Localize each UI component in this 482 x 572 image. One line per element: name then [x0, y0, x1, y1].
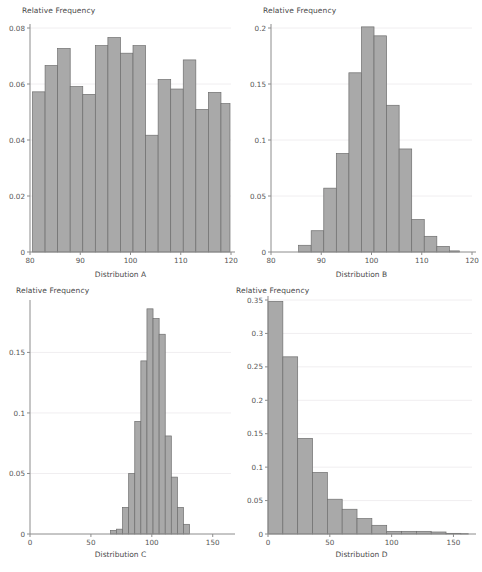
x-tick-label: 100 — [365, 256, 379, 265]
y-tick-label: 0.1 — [255, 136, 266, 145]
histogram-bar — [147, 309, 153, 534]
histogram-bar — [208, 92, 221, 252]
y-tick-label: 0 — [20, 530, 25, 539]
x-tick-label: 110 — [415, 256, 429, 265]
histogram-bar — [372, 525, 387, 534]
histogram-bar — [146, 135, 159, 252]
histogram-bar — [324, 188, 337, 252]
panel-a-xlabel: Distribution A — [0, 270, 241, 279]
histogram-bar — [357, 519, 372, 534]
histogram-bar — [177, 507, 183, 534]
y-tick-label: 0.04 — [9, 136, 25, 145]
histogram-bar — [412, 220, 425, 252]
histogram-bar — [283, 357, 298, 534]
x-tick-label: 150 — [447, 538, 461, 547]
x-tick-label: 150 — [206, 538, 220, 547]
histogram-bar — [387, 105, 400, 252]
histogram-bar — [313, 472, 328, 534]
histogram-bar — [299, 245, 312, 252]
histogram-bar — [123, 507, 129, 534]
histogram-bar — [298, 438, 313, 534]
y-tick-label: 0.2 — [255, 24, 266, 33]
histogram-bar — [129, 473, 135, 534]
x-tick-label: 50 — [86, 538, 96, 547]
histogram-bar — [349, 73, 362, 252]
histogram-bar — [183, 524, 189, 534]
y-tick-label: 0.05 — [250, 192, 266, 201]
histogram-bar — [116, 529, 122, 534]
histogram-bar — [171, 89, 184, 252]
x-tick-label: 110 — [174, 256, 188, 265]
histogram-bar — [120, 53, 133, 252]
panel-distribution-b: Relative Frequency 00.050.10.150.2809010… — [241, 0, 482, 286]
histogram-bar — [342, 509, 357, 534]
histogram-bar — [171, 477, 177, 534]
histogram-bar — [374, 36, 387, 252]
x-tick-label: 90 — [76, 256, 86, 265]
panel-a-plot: 00.020.040.060.088090100110120 — [0, 0, 241, 286]
histogram-bar — [70, 87, 83, 252]
y-tick-label: 0.25 — [247, 362, 263, 371]
histogram-bar — [110, 530, 116, 534]
y-tick-label: 0.05 — [247, 496, 263, 505]
panel-c-xlabel: Distribution C — [0, 550, 241, 559]
y-tick-label: 0.1 — [252, 463, 263, 472]
histogram-bar — [165, 436, 171, 534]
x-tick-label: 100 — [385, 538, 399, 547]
histogram-bar — [108, 38, 121, 252]
histogram-bar — [336, 153, 349, 252]
histogram-bar — [424, 236, 437, 252]
histogram-bar — [141, 361, 147, 534]
panel-distribution-c: Relative Frequency 00.050.10.15050100150… — [0, 286, 241, 572]
histogram-bar — [95, 46, 108, 252]
panel-b-plot: 00.050.10.150.28090100110120 — [241, 0, 482, 286]
histogram-bar — [221, 104, 230, 252]
y-tick-label: 0.15 — [247, 429, 263, 438]
y-tick-label: 0.15 — [250, 80, 266, 89]
y-tick-label: 0.15 — [9, 348, 25, 357]
histogram-bar — [159, 334, 165, 534]
y-tick-label: 0.02 — [9, 192, 25, 201]
x-tick-label: 80 — [25, 256, 35, 265]
x-tick-label: 100 — [145, 538, 159, 547]
histogram-bar — [58, 48, 71, 252]
histogram-bar — [45, 66, 58, 252]
histogram-bar — [327, 499, 342, 534]
y-tick-label: 0.35 — [247, 296, 263, 305]
x-tick-label: 100 — [124, 256, 138, 265]
histogram-bar — [33, 92, 46, 252]
y-tick-label: 0.1 — [14, 409, 25, 418]
panel-d-plot: 00.050.10.150.20.250.30.35050100150 — [241, 286, 482, 572]
histogram-bar — [437, 246, 450, 252]
x-tick-label: 120 — [465, 256, 479, 265]
histogram-bar — [133, 46, 146, 252]
y-tick-label: 0.05 — [9, 469, 25, 478]
y-tick-label: 0.2 — [252, 396, 263, 405]
panel-distribution-d: Relative Frequency 00.050.10.150.20.250.… — [241, 286, 482, 572]
x-tick-label: 0 — [28, 538, 33, 547]
histogram-bar — [196, 109, 209, 252]
histogram-bar — [153, 319, 159, 534]
x-tick-label: 0 — [266, 538, 271, 547]
histogram-figure: Relative Frequency 00.020.040.060.088090… — [0, 0, 482, 572]
x-tick-label: 90 — [317, 256, 327, 265]
panel-b-xlabel: Distribution B — [241, 270, 482, 279]
histogram-bar — [158, 80, 171, 252]
histogram-bar — [399, 149, 412, 252]
panel-c-plot: 00.050.10.15050100150 — [0, 286, 241, 572]
panel-distribution-a: Relative Frequency 00.020.040.060.088090… — [0, 0, 241, 286]
x-tick-label: 50 — [325, 538, 335, 547]
y-tick-label: 0.3 — [252, 329, 263, 338]
y-tick-label: 0 — [258, 530, 263, 539]
y-tick-label: 0.06 — [9, 80, 25, 89]
histogram-bar — [83, 94, 96, 252]
y-tick-label: 0.08 — [9, 24, 25, 33]
x-tick-label: 80 — [266, 256, 276, 265]
histogram-bar — [268, 301, 283, 534]
histogram-bar — [135, 421, 141, 534]
x-tick-label: 120 — [224, 256, 238, 265]
histogram-bar — [183, 60, 196, 252]
panel-d-xlabel: Distribution D — [241, 550, 482, 559]
histogram-bar — [311, 231, 324, 252]
histogram-bar — [361, 27, 374, 252]
